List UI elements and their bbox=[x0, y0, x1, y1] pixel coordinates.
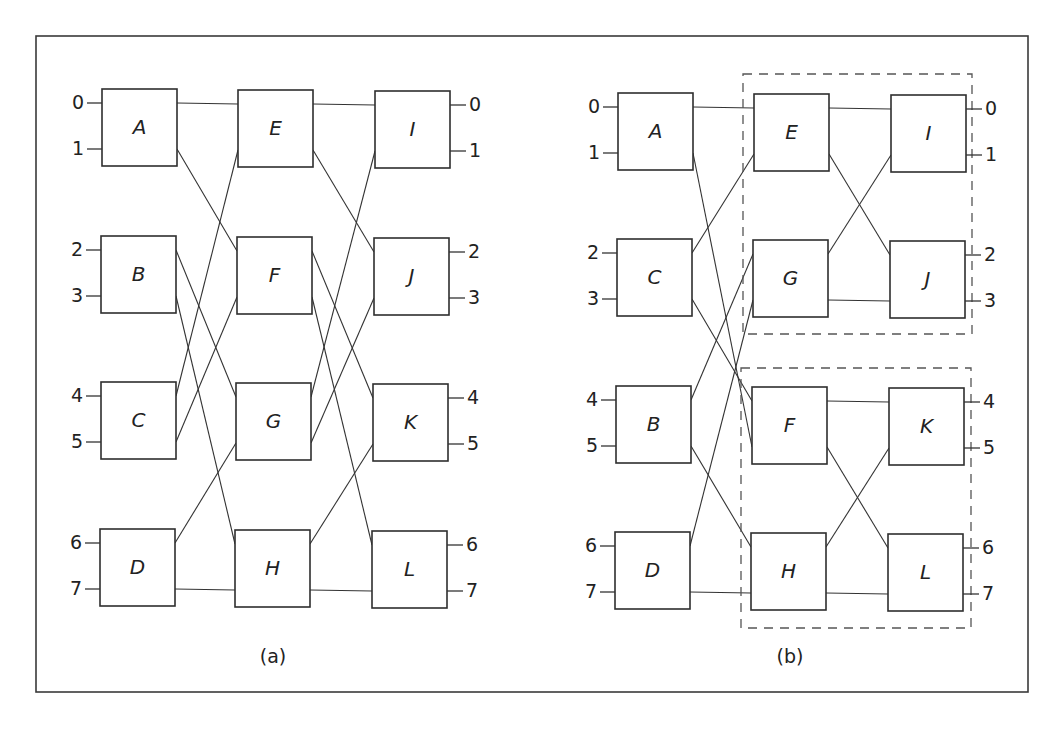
input-port-label: 2 bbox=[71, 238, 83, 260]
switch-node-D: D bbox=[100, 529, 175, 606]
switch-node-I: I bbox=[375, 91, 450, 168]
link-C-F bbox=[176, 297, 237, 442]
switch-label: K bbox=[920, 414, 935, 438]
switch-node-J: J bbox=[890, 241, 965, 318]
output-port-label: 7 bbox=[466, 579, 478, 601]
input-port-label: 3 bbox=[587, 287, 599, 309]
input-port-label: 3 bbox=[71, 284, 83, 306]
switch-label: D bbox=[130, 555, 145, 579]
link-D-G bbox=[175, 443, 236, 543]
input-port-label: 4 bbox=[586, 388, 598, 410]
output-port-label: 3 bbox=[984, 289, 996, 311]
switch-node-G: G bbox=[236, 383, 311, 460]
switch-label: A bbox=[647, 119, 663, 143]
switch-node-L: L bbox=[888, 534, 963, 611]
link-D-H bbox=[175, 589, 235, 590]
link-G-J bbox=[828, 300, 890, 301]
switch-node-K: K bbox=[889, 388, 964, 465]
switch-label: I bbox=[410, 117, 416, 141]
switch-node-H: H bbox=[235, 530, 310, 607]
link-D-H bbox=[690, 592, 751, 593]
panel-caption-b: (b) bbox=[777, 645, 804, 667]
switch-node-F: F bbox=[752, 387, 827, 464]
input-port-label: 1 bbox=[588, 141, 600, 163]
switch-node-H: H bbox=[751, 533, 826, 610]
output-port-label: 0 bbox=[985, 97, 997, 119]
switch-label: F bbox=[269, 263, 281, 287]
link-D-G bbox=[690, 300, 753, 546]
switch-node-B: B bbox=[616, 386, 691, 463]
link-E-I bbox=[829, 108, 891, 109]
output-port-label: 2 bbox=[984, 243, 996, 265]
switch-label: B bbox=[647, 412, 661, 436]
switch-label: E bbox=[269, 116, 282, 140]
switch-label: L bbox=[920, 560, 931, 584]
switch-label: L bbox=[404, 557, 415, 581]
output-port-label: 5 bbox=[467, 432, 479, 454]
wires bbox=[175, 103, 375, 591]
butterfly-network-diagram: ABCDEFGHIJKL0123456701234567(a) ACBDEGFH… bbox=[0, 0, 1061, 734]
switch-node-L: L bbox=[372, 531, 447, 608]
output-port-label: 5 bbox=[983, 436, 995, 458]
output-port-label: 7 bbox=[982, 582, 994, 604]
input-port-label: 5 bbox=[586, 434, 598, 456]
output-port-label: 6 bbox=[982, 536, 994, 558]
switch-node-G: G bbox=[753, 240, 828, 317]
switch-label: F bbox=[784, 413, 796, 437]
link-A-E bbox=[177, 103, 238, 104]
output-port-label: 0 bbox=[469, 93, 481, 115]
switch-node-A: A bbox=[618, 93, 693, 170]
output-port-label: 3 bbox=[468, 286, 480, 308]
wires bbox=[690, 107, 891, 594]
link-G-I bbox=[828, 155, 891, 254]
link-A-E bbox=[693, 107, 754, 108]
switch-node-B: B bbox=[101, 236, 176, 313]
panel-b-network: ACBDEGFHIJKL0123456701234567(b) bbox=[585, 74, 997, 667]
output-port-label: 6 bbox=[466, 533, 478, 555]
switch-label: A bbox=[131, 115, 147, 139]
output-port-label: 2 bbox=[468, 240, 480, 262]
switch-label: D bbox=[645, 558, 660, 582]
switch-label: C bbox=[648, 265, 662, 289]
switch-label: C bbox=[132, 408, 146, 432]
input-port-label: 6 bbox=[70, 531, 82, 553]
switch-label: K bbox=[404, 410, 419, 434]
output-port-label: 1 bbox=[985, 143, 997, 165]
link-B-H bbox=[691, 446, 751, 547]
switch-label: H bbox=[781, 559, 796, 583]
output-port-label: 1 bbox=[469, 139, 481, 161]
switch-label: I bbox=[926, 121, 932, 145]
input-port-label: 4 bbox=[71, 384, 83, 406]
output-port-label: 4 bbox=[467, 386, 479, 408]
input-port-label: 7 bbox=[585, 580, 597, 602]
switch-node-A: A bbox=[102, 89, 177, 166]
link-F-K bbox=[312, 251, 373, 398]
switch-label: H bbox=[265, 556, 280, 580]
switch-label: B bbox=[132, 262, 146, 286]
switch-node-K: K bbox=[373, 384, 448, 461]
link-E-J bbox=[313, 150, 374, 252]
switch-node-D: D bbox=[615, 532, 690, 609]
link-C-E bbox=[692, 154, 754, 253]
input-port-label: 0 bbox=[72, 91, 84, 113]
link-F-K bbox=[827, 401, 889, 402]
switch-node-C: C bbox=[101, 382, 176, 459]
link-H-K bbox=[310, 444, 373, 544]
switch-label: G bbox=[266, 409, 282, 433]
output-port-label: 4 bbox=[983, 390, 995, 412]
switch-label: G bbox=[783, 266, 799, 290]
link-B-G bbox=[176, 250, 236, 397]
switch-node-C: C bbox=[617, 239, 692, 316]
switch-node-F: F bbox=[237, 237, 312, 314]
switch-node-I: I bbox=[891, 95, 966, 172]
switch-label: E bbox=[785, 120, 798, 144]
input-port-label: 7 bbox=[70, 577, 82, 599]
input-port-label: 0 bbox=[588, 95, 600, 117]
link-E-I bbox=[313, 104, 375, 105]
panel-caption-a: (a) bbox=[260, 645, 286, 667]
link-B-G bbox=[691, 254, 753, 400]
panel-a-network: ABCDEFGHIJKL0123456701234567(a) bbox=[70, 89, 481, 667]
switch-node-J: J bbox=[374, 238, 449, 315]
input-port-label: 5 bbox=[71, 430, 83, 452]
link-H-L bbox=[826, 593, 888, 594]
